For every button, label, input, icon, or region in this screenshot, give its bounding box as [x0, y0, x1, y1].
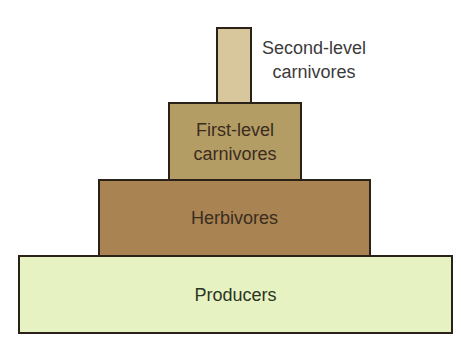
label-line-1: First-level — [193, 118, 276, 142]
label-line-1: Second-level — [254, 36, 374, 60]
label-line-2: carnivores — [193, 142, 276, 166]
label-first-level-carnivores: First-level carnivores — [193, 118, 276, 166]
level-producers: Producers — [18, 255, 453, 334]
trophic-pyramid: Second-level carnivores First-level carn… — [0, 0, 462, 352]
label-line-2: carnivores — [254, 60, 374, 84]
label-producers: Producers — [194, 283, 276, 307]
label-herbivores: Herbivores — [191, 206, 278, 230]
label-second-level-carnivores: Second-level carnivores — [254, 36, 374, 84]
level-herbivores: Herbivores — [98, 179, 371, 257]
level-first-level-carnivores: First-level carnivores — [168, 102, 302, 181]
level-second-level-carnivores — [216, 27, 252, 104]
